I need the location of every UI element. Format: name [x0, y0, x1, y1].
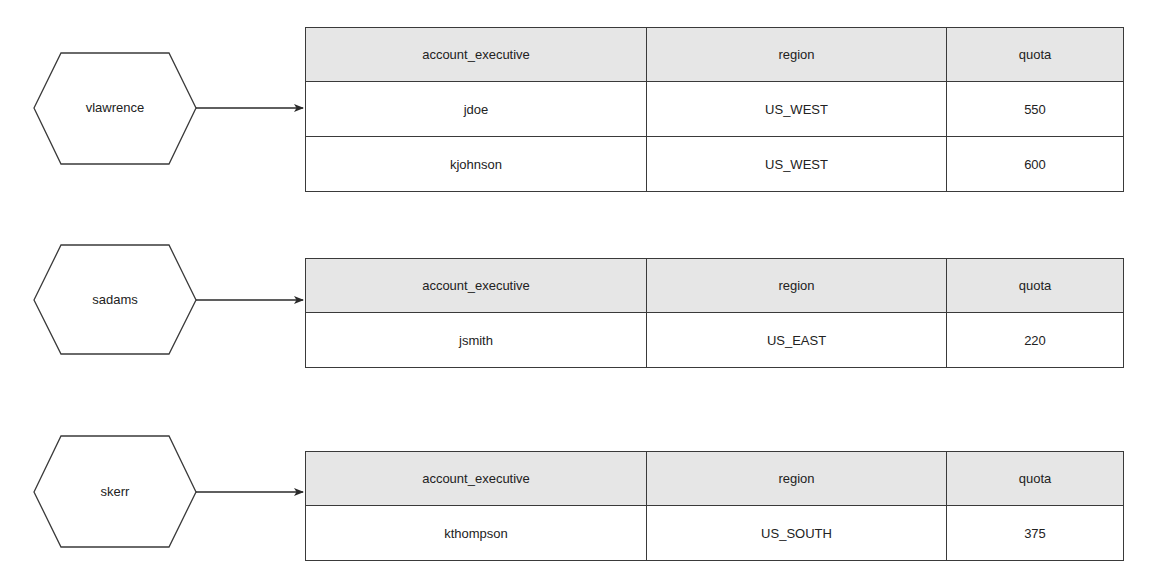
- manager-label: vlawrence: [34, 100, 196, 115]
- column-header-account-executive: account_executive: [306, 452, 647, 506]
- cell-region: US_WEST: [647, 82, 947, 137]
- table-header-row: account_executive region quota: [306, 452, 1124, 506]
- column-header-region: region: [647, 28, 947, 82]
- column-header-account-executive: account_executive: [306, 28, 647, 82]
- table-header-row: account_executive region quota: [306, 259, 1124, 313]
- column-header-quota: quota: [947, 452, 1124, 506]
- table-header-row: account_executive region quota: [306, 28, 1124, 82]
- quota-table-skerr: account_executive region quota kthompson…: [305, 451, 1124, 561]
- cell-quota: 375: [947, 506, 1124, 561]
- cell-region: US_EAST: [647, 313, 947, 368]
- cell-quota: 550: [947, 82, 1124, 137]
- column-header-quota: quota: [947, 259, 1124, 313]
- cell-account-executive: jdoe: [306, 82, 647, 137]
- table-row: kjohnson US_WEST 600: [306, 137, 1124, 192]
- cell-account-executive: kthompson: [306, 506, 647, 561]
- cell-quota: 600: [947, 137, 1124, 192]
- column-header-region: region: [647, 259, 947, 313]
- manager-label: sadams: [34, 292, 196, 307]
- quota-table-sadams: account_executive region quota jsmith US…: [305, 258, 1124, 368]
- cell-region: US_SOUTH: [647, 506, 947, 561]
- column-header-account-executive: account_executive: [306, 259, 647, 313]
- cell-account-executive: jsmith: [306, 313, 647, 368]
- column-header-region: region: [647, 452, 947, 506]
- manager-label: skerr: [34, 484, 196, 499]
- table-row: kthompson US_SOUTH 375: [306, 506, 1124, 561]
- cell-region: US_WEST: [647, 137, 947, 192]
- table-row: jsmith US_EAST 220: [306, 313, 1124, 368]
- column-header-quota: quota: [947, 28, 1124, 82]
- quota-table-vlawrence: account_executive region quota jdoe US_W…: [305, 27, 1124, 192]
- cell-account-executive: kjohnson: [306, 137, 647, 192]
- table-row: jdoe US_WEST 550: [306, 82, 1124, 137]
- cell-quota: 220: [947, 313, 1124, 368]
